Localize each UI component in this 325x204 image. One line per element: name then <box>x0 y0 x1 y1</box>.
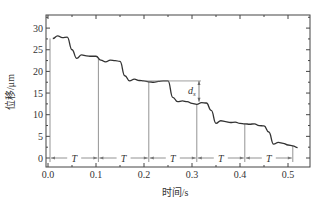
period-label: T <box>121 153 128 164</box>
x-axis-ticks: 0.00.10.20.30.40.5 <box>42 15 295 180</box>
y-tick-label: 15 <box>33 88 43 99</box>
x-tick-label: 0.1 <box>90 169 103 180</box>
step-annotation: ds <box>144 81 201 102</box>
y-tick-label: 0 <box>38 153 43 164</box>
period-label: T <box>71 153 78 164</box>
step-label: ds <box>188 85 196 98</box>
period-label: T <box>266 153 273 164</box>
x-tick-label: 0.3 <box>186 169 199 180</box>
x-tick-label: 0.4 <box>234 169 247 180</box>
x-axis-title: 时间/s <box>162 186 189 198</box>
plot-frame <box>46 15 310 167</box>
x-tick-label: 0.0 <box>42 169 55 180</box>
y-tick-label: 5 <box>38 131 43 142</box>
y-tick-label: 10 <box>33 109 43 120</box>
chart-svg: 0.00.10.20.30.40.5 051015202530 TTTTT ds… <box>0 0 325 204</box>
period-markers: TTTTT <box>50 38 293 163</box>
y-axis-ticks: 051015202530 <box>33 17 310 163</box>
period-label: T <box>170 153 177 164</box>
x-tick-label: 0.2 <box>138 169 151 180</box>
y-tick-label: 20 <box>33 66 43 77</box>
y-axis-title: 位移/μm <box>4 74 16 110</box>
y-tick-label: 25 <box>33 44 43 55</box>
y-tick-label: 30 <box>33 23 43 34</box>
period-label: T <box>218 153 225 164</box>
displacement-curve <box>53 36 298 148</box>
x-tick-label: 0.5 <box>282 169 295 180</box>
